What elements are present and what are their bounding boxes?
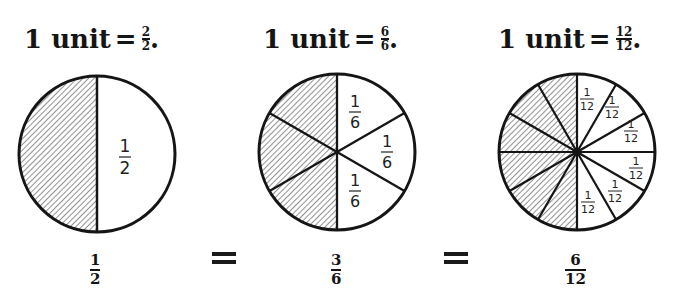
denominator: 12 (565, 272, 586, 287)
numerator: 12 (616, 26, 633, 38)
sector-label: 1 6 (381, 132, 393, 172)
denominator: 12 (616, 40, 633, 52)
label-numerator: 1 (609, 94, 616, 107)
denominator: 6 (381, 40, 389, 52)
label-denominator: 2 (120, 158, 131, 178)
fraction-one-half: 1 2 (90, 253, 100, 287)
period: . (150, 24, 159, 54)
equation-term-3: 6 12 (565, 250, 586, 287)
label-denominator: 6 (350, 113, 360, 132)
label-numerator: 1 (350, 171, 360, 190)
heading-prefix: 1 unit (24, 24, 111, 54)
equals-sign: = (115, 24, 137, 54)
fraction: 12 12 (616, 26, 633, 52)
label-numerator: 1 (612, 178, 619, 191)
heading-sixths: 1 unit = 6 6 . (263, 24, 398, 54)
label-denominator: 12 (624, 132, 638, 145)
numerator: 6 (381, 26, 389, 38)
label-numerator: 1 (584, 86, 591, 99)
heading-prefix: 1 unit (263, 24, 350, 54)
denominator: 2 (90, 272, 100, 287)
sector-label: 1 6 (349, 171, 361, 211)
label-denominator: 12 (629, 169, 643, 182)
sector-label: 1 12 (608, 178, 622, 205)
center-point (573, 148, 581, 156)
sector-label: 1 12 (624, 118, 638, 145)
numerator: 6 (570, 253, 580, 268)
label-denominator: 12 (581, 203, 595, 216)
label-numerator: 1 (628, 118, 635, 131)
circle-sixths: 1 6 1 6 1 6 (252, 70, 422, 240)
label-denominator: 12 (605, 108, 619, 121)
label-numerator: 1 (633, 155, 640, 168)
label-denominator: 6 (382, 153, 392, 172)
label-denominator: 12 (608, 192, 622, 205)
heading-prefix: 1 unit (498, 24, 585, 54)
equals-sign: = (589, 24, 611, 54)
fraction: 6 6 (381, 26, 389, 52)
equals-sign: = (354, 24, 376, 54)
sector-label: 1 2 (119, 136, 131, 178)
label-numerator: 1 (120, 136, 131, 156)
sector-label: 1 12 (580, 86, 594, 113)
period: . (632, 24, 641, 54)
circle-halves: 1 2 (12, 70, 182, 240)
shaded-sector (259, 74, 337, 230)
period: . (389, 24, 398, 54)
equation-term-2: 3 6 (331, 250, 341, 287)
denominator: 6 (331, 272, 341, 287)
sector-label: 1 12 (629, 155, 643, 182)
numerator: 1 (90, 253, 100, 268)
label-numerator: 1 (350, 92, 360, 111)
sector-label: 1 12 (581, 189, 595, 216)
heading-halves: 1 unit = 2 2 . (24, 24, 159, 54)
numerator: 3 (331, 253, 341, 268)
label-denominator: 12 (580, 100, 594, 113)
fraction-three-sixths: 3 6 (331, 253, 341, 287)
sector-label: 1 6 (349, 92, 361, 132)
equals-sign-1 (212, 252, 236, 264)
heading-twelfths: 1 unit = 12 12 . (498, 24, 641, 54)
fraction-six-twelfths: 6 12 (565, 253, 586, 287)
fraction: 2 2 (142, 26, 150, 52)
shaded-sector (19, 76, 97, 232)
label-numerator: 1 (382, 132, 392, 151)
numerator: 2 (142, 26, 150, 38)
denominator: 2 (142, 40, 150, 52)
circle-twelfths: 1 12 1 12 1 12 1 12 1 12 (492, 70, 662, 240)
label-numerator: 1 (585, 189, 592, 202)
equation-term-1: 1 2 (90, 250, 100, 287)
equals-sign-2 (444, 252, 468, 264)
label-denominator: 6 (350, 192, 360, 211)
